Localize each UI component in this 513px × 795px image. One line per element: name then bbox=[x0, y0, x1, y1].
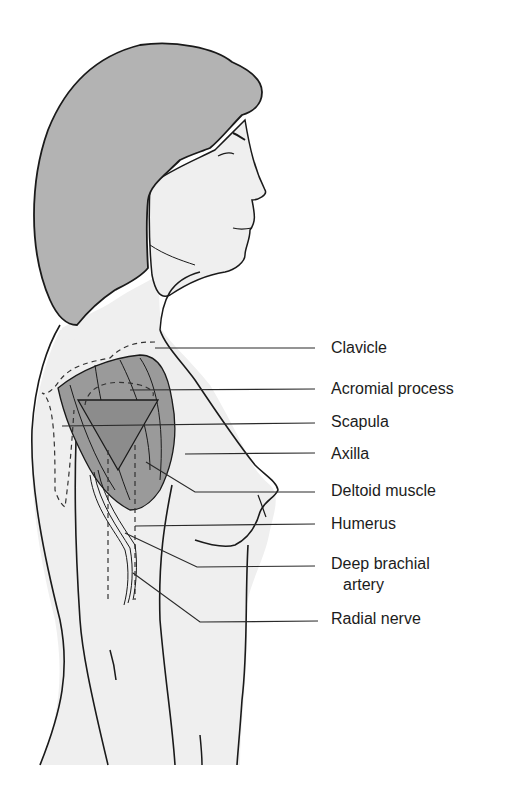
label-radial-nerve: Radial nerve bbox=[331, 610, 421, 628]
label-deep-brachial-artery: Deep brachial bbox=[331, 555, 430, 573]
label-deltoid-muscle: Deltoid muscle bbox=[331, 482, 436, 500]
label-acromial-process: Acromial process bbox=[331, 380, 454, 398]
label-scapula: Scapula bbox=[331, 413, 389, 431]
label-deep-brachial-artery-line2: artery bbox=[331, 576, 384, 594]
label-axilla: Axilla bbox=[331, 445, 369, 463]
label-clavicle: Clavicle bbox=[331, 339, 387, 357]
label-humerus: Humerus bbox=[331, 515, 396, 533]
